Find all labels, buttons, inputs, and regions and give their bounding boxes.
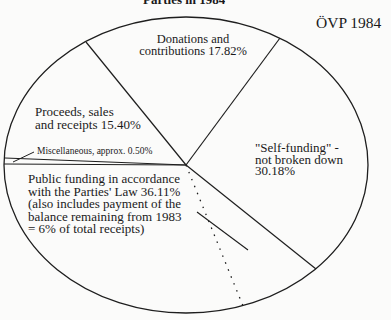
slice-label-proceeds: Proceeds, sales and receipts 15.40% bbox=[35, 105, 141, 131]
slice-label-misc: Miscellaneous, approx. 0.50% bbox=[37, 146, 152, 156]
divider-self-public bbox=[186, 165, 316, 269]
slice-label-public-funding: Public funding in accordance with the Pa… bbox=[28, 173, 181, 236]
slice-label-self-funding: "Self-funding" - not broken down 30.18% bbox=[255, 142, 343, 177]
misc-leader-line bbox=[13, 152, 34, 162]
pie-chart: Parties in 1984 ÖVP 1984 Donations and c… bbox=[0, 0, 391, 320]
slice-label-donations: Donations and contributions 17.82% bbox=[123, 33, 263, 57]
dotted-subdivision-1983-balance bbox=[186, 165, 243, 306]
public-leader-line bbox=[197, 212, 248, 250]
